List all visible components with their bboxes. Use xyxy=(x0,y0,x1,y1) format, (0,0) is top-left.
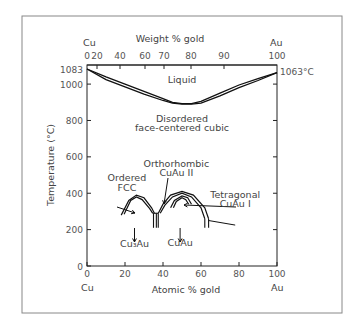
x-tick-label: 40 xyxy=(157,269,169,279)
region-label: Liquid xyxy=(168,74,197,85)
x2-axis-title: Weight % gold xyxy=(136,33,205,44)
tie-line xyxy=(209,221,236,226)
x-tick-label: 0 xyxy=(84,269,90,279)
x2-tick-label: 60 xyxy=(139,51,151,61)
x-tick-label: 60 xyxy=(195,269,207,279)
y-tick-label: 200 xyxy=(66,225,83,235)
region-label: CuAu xyxy=(168,237,193,248)
y-tick-label: 1000 xyxy=(60,80,83,90)
y-axis-title: Temperature (°C) xyxy=(45,124,56,207)
region-label: Cu₃Au xyxy=(120,238,149,249)
x2-tick-label: 100 xyxy=(268,51,285,61)
x-axis-title: Atomic % gold xyxy=(152,284,221,295)
x-tick-label: 80 xyxy=(233,269,245,279)
x-right-end-label: Au xyxy=(271,282,284,293)
y-tick-label: 1083 xyxy=(60,65,83,75)
x-tick-label: 20 xyxy=(119,269,131,279)
x-left-end-label: Cu xyxy=(81,282,94,293)
region-label: FCC xyxy=(118,182,137,193)
y-tick-label: 0 xyxy=(77,262,83,272)
x2-tick-label: 70 xyxy=(158,51,170,61)
x2-tick-label: 80 xyxy=(185,51,197,61)
x2-tick-label: 20 xyxy=(91,51,103,61)
dome-outer-CuAu-II xyxy=(158,191,208,218)
y-tick-label: 800 xyxy=(66,116,83,126)
x2-tick-label: 90 xyxy=(218,51,230,61)
region-label: face-centered cubic xyxy=(135,122,229,133)
x2-tick-label: 0 xyxy=(84,51,90,61)
x2-left-end-label: Cu xyxy=(83,37,96,48)
region-label: CuAu I xyxy=(220,198,251,209)
region-label: CuAu II xyxy=(159,167,193,178)
dome-inner-Cu3Au xyxy=(124,197,153,214)
x2-tick-label: 40 xyxy=(114,51,126,61)
x2-right-end-label: Au xyxy=(270,37,283,48)
phase-diagram: 0204060801000200400600800100010830204060… xyxy=(0,0,364,334)
x-tick-label: 100 xyxy=(268,269,285,279)
y-tick-label: 600 xyxy=(66,152,83,162)
melting-point-label: 1063°C xyxy=(280,67,314,77)
ordered-fcc-arrow xyxy=(117,207,135,213)
y-tick-label: 400 xyxy=(66,189,83,199)
